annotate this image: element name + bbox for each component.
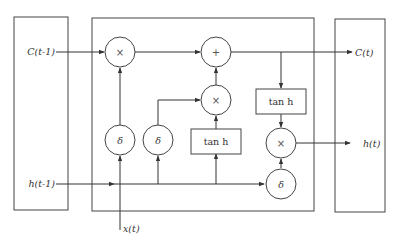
- forget-gate-sigma-node: δ: [105, 125, 135, 155]
- x-input-label: x(t): [123, 223, 140, 234]
- svg-text:×: ×: [116, 47, 124, 58]
- svg-text:×: ×: [277, 138, 285, 149]
- svg-text:δ: δ: [117, 135, 123, 146]
- lstm-diagram: × + × × δ δ δ tan h tan h C(t-1) h(t-1) …: [0, 0, 395, 244]
- svg-text:tan h: tan h: [204, 136, 229, 147]
- svg-text:tan h: tan h: [269, 96, 294, 107]
- output-multiply-node: ×: [266, 128, 296, 158]
- hidden-out-label: h(t): [363, 138, 381, 149]
- input-multiply-node: ×: [201, 85, 231, 115]
- forget-multiply-node: ×: [105, 37, 135, 67]
- cell-prev-label: C(t-1): [27, 46, 55, 57]
- svg-text:δ: δ: [278, 179, 284, 190]
- cell-out-label: C(t): [355, 47, 374, 58]
- add-node: +: [201, 37, 231, 67]
- svg-text:δ: δ: [155, 135, 161, 146]
- svg-text:×: ×: [212, 95, 220, 106]
- output-gate-sigma-node: δ: [266, 169, 296, 199]
- svg-text:+: +: [212, 47, 220, 58]
- input-gate-sigma-node: δ: [143, 125, 173, 155]
- tanh-candidate-box: tan h: [191, 129, 241, 154]
- hidden-prev-label: h(t-1): [28, 178, 55, 189]
- tanh-cell-box: tan h: [256, 89, 306, 114]
